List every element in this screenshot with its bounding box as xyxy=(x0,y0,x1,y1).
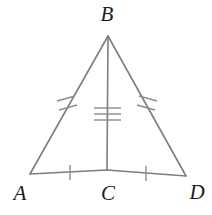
segment-bd xyxy=(108,36,186,176)
segment-bc-cevian xyxy=(107,36,108,170)
vertex-label-d: D xyxy=(189,182,204,203)
vertex-label-a: A xyxy=(14,183,27,204)
segment-ab xyxy=(30,36,108,174)
triangle-sides xyxy=(30,36,186,176)
geometry-figure: B A C D xyxy=(0,0,212,215)
vertex-label-b: B xyxy=(101,4,114,25)
segment-ac xyxy=(30,170,107,174)
vertex-label-c: C xyxy=(101,183,115,204)
tick-mark-bd-1 xyxy=(139,96,157,101)
